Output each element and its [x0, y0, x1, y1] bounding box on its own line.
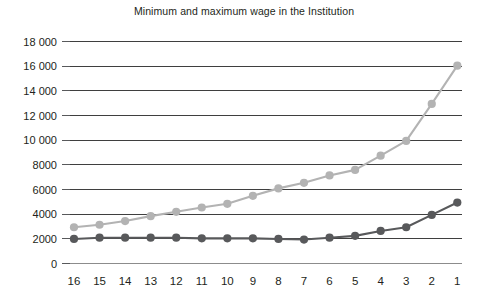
data-point-marker — [223, 234, 231, 242]
data-point-marker — [428, 100, 436, 108]
data-point-marker — [274, 235, 282, 243]
x-axis-tick-label: 11 — [196, 275, 208, 287]
x-axis-tick-label: 3 — [403, 275, 409, 287]
x-axis-tick-label: 6 — [326, 275, 332, 287]
x-axis-tick-label: 15 — [93, 275, 106, 287]
x-axis-tick-label: 5 — [352, 275, 358, 287]
data-point-marker — [147, 212, 155, 220]
data-point-marker — [70, 223, 78, 231]
x-axis-labels-group: 16151413121110987654321 — [68, 275, 461, 287]
y-axis-tick-label: 8000 — [33, 159, 57, 171]
data-point-marker — [453, 62, 461, 70]
data-point-marker — [377, 227, 385, 235]
chart-container: Minimum and maximum wage in the Institut… — [0, 0, 488, 300]
y-axis-tick-label: 6000 — [33, 184, 57, 196]
data-point-marker — [95, 234, 103, 242]
x-axis-tick-label: 16 — [68, 275, 81, 287]
data-point-marker — [402, 137, 410, 145]
data-point-marker — [70, 235, 78, 243]
data-point-marker — [453, 198, 461, 206]
y-axis-tick-label: 0 — [51, 258, 57, 270]
series-line — [74, 203, 457, 240]
data-point-marker — [274, 184, 282, 192]
x-axis-tick-label: 9 — [250, 275, 256, 287]
x-axis-tick-label: 12 — [170, 275, 183, 287]
x-axis-tick-label: 4 — [377, 275, 384, 287]
data-point-marker — [147, 234, 155, 242]
x-axis-tick-label: 14 — [119, 275, 132, 287]
data-point-marker — [325, 171, 333, 179]
y-axis-tick-label: 18 000 — [23, 36, 57, 48]
x-axis-tick-label: 8 — [275, 275, 281, 287]
y-axis-tick-label: 2000 — [33, 233, 57, 245]
y-axis-tick-label: 10 000 — [23, 134, 57, 146]
y-axis-tick-label: 4000 — [33, 208, 57, 220]
x-axis-tick-label: 7 — [301, 275, 307, 287]
data-point-marker — [172, 208, 180, 216]
data-point-marker — [198, 203, 206, 211]
y-axis-tick-label: 16 000 — [23, 60, 57, 72]
data-point-marker — [121, 217, 129, 225]
data-point-marker — [300, 235, 308, 243]
data-point-marker — [249, 234, 257, 242]
data-point-marker — [95, 221, 103, 229]
data-point-marker — [198, 234, 206, 242]
series-line — [74, 66, 457, 228]
x-axis-tick-label: 13 — [144, 275, 157, 287]
data-point-marker — [172, 234, 180, 242]
data-point-marker — [249, 192, 257, 200]
y-axis-tick-label: 12 000 — [23, 110, 57, 122]
x-axis-tick-label: 1 — [454, 275, 460, 287]
gridlines-group: 0200040006000800010 00012 00014 00016 00… — [23, 36, 462, 270]
series-maximum-wage — [70, 62, 462, 232]
data-point-marker — [351, 166, 359, 174]
data-point-marker — [428, 211, 436, 219]
data-point-marker — [300, 179, 308, 187]
data-point-marker — [121, 234, 129, 242]
y-axis-tick-label: 14 000 — [23, 85, 57, 97]
line-chart-plot: 0200040006000800010 00012 00014 00016 00… — [0, 0, 488, 300]
data-point-marker — [325, 234, 333, 242]
data-point-marker — [402, 223, 410, 231]
x-axis-tick-label: 10 — [221, 275, 234, 287]
x-axis-tick-label: 2 — [429, 275, 435, 287]
data-point-marker — [377, 152, 385, 160]
data-point-marker — [351, 232, 359, 240]
data-point-marker — [223, 200, 231, 208]
